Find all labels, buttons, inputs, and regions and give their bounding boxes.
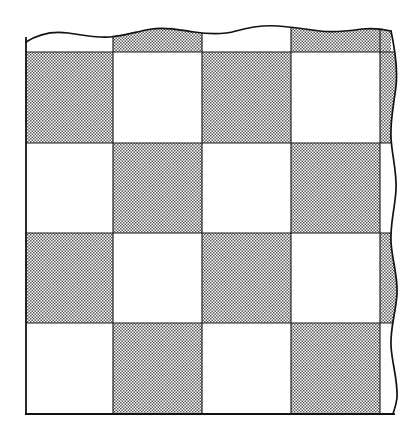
paper-body	[20, 20, 410, 420]
cell-r4c1	[26, 323, 113, 414]
cell-r3c2	[113, 233, 202, 323]
cell-r0c1	[26, 24, 113, 52]
cell-r1c5	[380, 52, 404, 143]
checkerboard-figure	[0, 0, 418, 434]
grid-row-3	[26, 233, 380, 323]
cell-r2c4	[291, 143, 380, 233]
cell-r1c2	[113, 52, 202, 143]
cell-r2c2	[113, 143, 202, 233]
cell-r2c1	[26, 143, 113, 233]
sliver-row	[26, 24, 400, 52]
grid-row-1	[26, 52, 380, 143]
cell-r1c3	[202, 52, 291, 143]
cell-r3c3	[202, 233, 291, 323]
cell-r3c1	[26, 233, 113, 323]
cell-r4c2	[113, 323, 202, 414]
grid-row-4	[26, 323, 380, 414]
cell-r2c3	[202, 143, 291, 233]
cell-r1c4	[291, 52, 380, 143]
cell-r3c4	[291, 233, 380, 323]
grid-row-2	[26, 143, 380, 233]
cell-r1c1	[26, 52, 113, 143]
cell-r0c5	[380, 24, 400, 52]
cell-r4c4	[291, 323, 380, 414]
figure-root	[0, 0, 418, 434]
cell-r4c3	[202, 323, 291, 414]
